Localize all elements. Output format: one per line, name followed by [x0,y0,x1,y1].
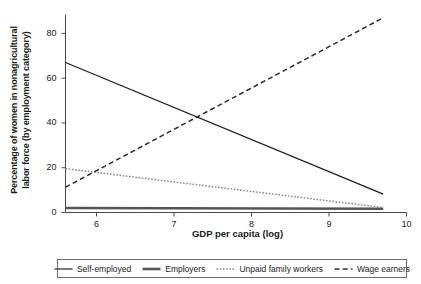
legend-label: Unpaid family workers [239,264,323,274]
series-line-wage-earners [66,18,384,187]
legend-item-unpaid-family-workers[interactable]: Unpaid family workers [216,264,323,274]
chart-legend: Self-employedEmployersUnpaid family work… [57,259,407,278]
legend-swatch-icon [142,265,161,273]
plot-area [0,0,421,284]
legend-item-employers[interactable]: Employers [142,264,205,274]
legend-label: Self-employed [77,264,131,274]
legend-swatch-icon [334,265,353,273]
legend-label: Employers [165,264,205,274]
legend-swatch-icon [54,265,73,273]
legend-swatch-icon [216,265,235,273]
legend-label: Wage earners [357,264,410,274]
legend-item-self-employed[interactable]: Self-employed [54,264,131,274]
x-axis-title: GDP per capita (log) [65,228,410,239]
data-series [66,18,384,209]
series-line-employers [66,208,384,209]
axes [62,15,407,217]
legend-item-wage-earners[interactable]: Wage earners [334,264,410,274]
chart-figure: Percentage of women in nonagricultural l… [0,0,421,284]
